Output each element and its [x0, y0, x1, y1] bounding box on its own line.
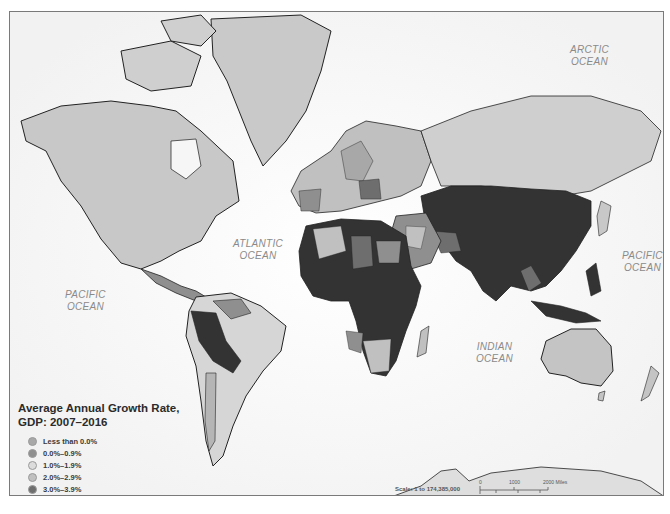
legend-label: 0.0%–0.9%	[43, 449, 81, 458]
ocean-label-line: INDIAN	[476, 341, 513, 353]
legend-label: 1.0%–1.9%	[43, 461, 81, 470]
legend-item: 1.0%–1.9%	[28, 459, 218, 471]
scale-tick: 2000 Miles	[543, 479, 567, 485]
legend-swatch	[28, 437, 37, 446]
ocean-label-line: OCEAN	[476, 353, 513, 365]
legend-label: Less than 0.0%	[43, 437, 97, 446]
map-frame: ARCTIC OCEAN ATLANTIC OCEAN PACIFIC OCEA…	[9, 11, 664, 496]
ocean-label-pacific-east: PACIFIC OCEAN	[622, 250, 663, 274]
legend-item: 0.0%–0.9%	[28, 447, 218, 459]
scale-ratio: Scale: 1 to 174,385,000	[395, 486, 460, 492]
ocean-label-line: ARCTIC	[570, 44, 609, 56]
ocean-label-line: OCEAN	[622, 262, 663, 274]
legend-item: More than 4.0%	[28, 495, 218, 496]
ocean-label-arctic: ARCTIC OCEAN	[570, 44, 609, 68]
ocean-label-line: OCEAN	[233, 250, 283, 262]
scale-tick: 0	[479, 479, 482, 485]
scale-tick: 1000	[509, 479, 520, 485]
legend-swatch	[28, 449, 37, 458]
ocean-label-pacific-west: PACIFIC OCEAN	[65, 289, 106, 313]
ocean-label-line: OCEAN	[65, 301, 106, 313]
legend-swatch	[28, 485, 37, 494]
legend-label: 3.0%–3.9%	[43, 485, 81, 494]
ocean-label-indian: INDIAN OCEAN	[476, 341, 513, 365]
legend-title: Average Annual Growth Rate, GDP: 2007–20…	[18, 401, 218, 429]
ocean-label-line: ATLANTIC	[233, 238, 283, 250]
ocean-label-line: OCEAN	[570, 56, 609, 68]
ocean-label-line: PACIFIC	[65, 289, 106, 301]
legend-item: 2.0%–2.9%	[28, 471, 218, 483]
legend-label: 2.0%–2.9%	[43, 473, 81, 482]
ocean-label-line: PACIFIC	[622, 250, 663, 262]
scale-tick: 2000	[512, 494, 523, 496]
legend-item: Less than 0.0%	[28, 435, 218, 447]
legend: Average Annual Growth Rate, GDP: 2007–20…	[18, 401, 218, 496]
legend-title-line1: Average Annual Growth Rate,	[18, 401, 218, 415]
legend-title-line2: GDP: 2007–2016	[18, 415, 218, 429]
scale-tick: 3000 Kilometers	[535, 494, 571, 496]
legend-items: Less than 0.0% 0.0%–0.9% 1.0%–1.9% 2.0%–…	[28, 435, 218, 496]
legend-item: 3.0%–3.9%	[28, 483, 218, 495]
legend-swatch	[28, 473, 37, 482]
ocean-label-atlantic: ATLANTIC OCEAN	[233, 238, 283, 262]
legend-swatch	[28, 461, 37, 470]
scale-tick: 1000	[491, 494, 502, 496]
scale-tick: 0	[479, 494, 482, 496]
